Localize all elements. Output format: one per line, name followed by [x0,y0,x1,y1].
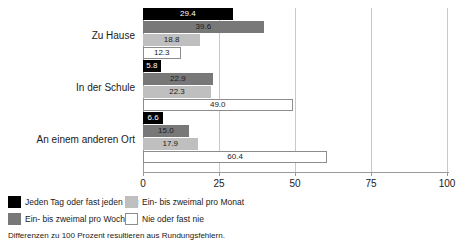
category-axis: Zu Hause In der Schule An einem anderen … [0,8,143,172]
tick-100 [447,172,448,176]
legend-row-2: Ein- bis zweimal pro Woche Nie oder fast… [8,211,328,226]
bar-chart: Zu Hause In der Schule An einem anderen … [0,0,471,247]
table-row: 60.4 [143,151,448,163]
x-tick-label-2: 50 [275,178,315,189]
category-label-2: An einem anderen Ort [0,134,135,145]
bar-value-0-2: 6.6 [143,112,163,124]
legend-row-1: Jeden Tag oder fast jeden Tag Ein- bis z… [8,194,328,209]
legend-swatch-icon-3 [125,213,138,225]
bar-value-3-0: 12.3 [143,47,181,59]
legend-item-pro-monat: Ein- bis zweimal pro Monat [125,196,244,208]
x-tick-label-1: 25 [199,178,239,189]
bar-value-1-1: 22.9 [143,73,213,85]
bar-value-2-2: 17.9 [143,138,198,150]
bar-value-1-0: 39.6 [143,21,264,33]
legend-label-1: Ein- bis zweimal pro Monat [142,197,244,207]
x-axis-line [143,172,449,173]
bar-group-2: 6.6 15.0 17.9 60.4 [143,112,448,164]
bar-value-0-0: 29.4 [143,8,233,20]
table-row: 12.3 [143,47,448,59]
table-row: 17.9 [143,138,448,150]
bar-value-0-1: 5.8 [143,60,161,72]
table-row: 22.9 [143,73,448,85]
plot-area: 29.4 39.6 18.8 12.3 5.8 22.9 [143,8,448,172]
bar-value-2-0: 18.8 [143,34,200,46]
legend-item-pro-woche: Ein- bis zweimal pro Woche [8,213,125,225]
legend-swatch-icon-0 [8,196,21,208]
table-row: 6.6 [143,112,448,124]
category-label-0: Zu Hause [0,30,135,41]
legend-label-2: Ein- bis zweimal pro Woche [25,214,130,224]
bar-value-3-2: 60.4 [143,151,327,163]
legend-swatch-icon-2 [125,196,138,208]
tick-50 [295,172,296,176]
table-row: 5.8 [143,60,448,72]
bar-group-1: 5.8 22.9 22.3 49.0 [143,60,448,112]
x-tick-label-4: 100 [427,178,467,189]
chart-legend: Jeden Tag oder fast jeden Tag Ein- bis z… [8,194,328,228]
bar-value-3-1: 49.0 [143,99,293,111]
table-row: 22.3 [143,86,448,98]
tick-0 [143,172,144,176]
bar-value-1-2: 15.0 [143,125,189,137]
x-tick-label-0: 0 [123,178,163,189]
table-row: 49.0 [143,99,448,111]
legend-item-jeden-tag: Jeden Tag oder fast jeden Tag [8,196,125,208]
legend-item-nie: Nie oder fast nie [125,213,204,225]
tick-75 [371,172,372,176]
legend-swatch-icon-1 [8,213,21,225]
tick-25 [219,172,220,176]
x-tick-label-3: 75 [351,178,391,189]
table-row: 15.0 [143,125,448,137]
chart-footnote: Differenzen zu 100 Prozent resultieren a… [8,231,225,240]
legend-label-0: Jeden Tag oder fast jeden Tag [25,197,139,207]
table-row: 18.8 [143,34,448,46]
table-row: 29.4 [143,8,448,20]
bar-group-0: 29.4 39.6 18.8 12.3 [143,8,448,60]
category-label-1: In der Schule [0,82,135,93]
table-row: 39.6 [143,21,448,33]
bar-value-2-1: 22.3 [143,86,211,98]
legend-label-3: Nie oder fast nie [142,214,204,224]
